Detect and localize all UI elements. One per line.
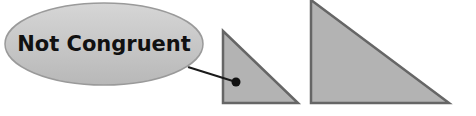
large-triangle bbox=[311, 0, 449, 103]
callout-label: Not Congruent bbox=[17, 32, 191, 56]
diagram-canvas: Not Congruent bbox=[0, 0, 476, 116]
small-triangle bbox=[223, 31, 298, 103]
callout-pointer-dot bbox=[232, 78, 241, 87]
